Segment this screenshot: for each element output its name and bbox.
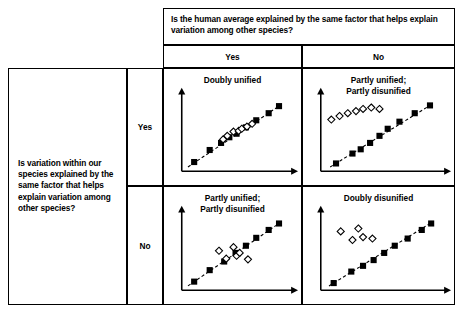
row-question-text: Is variation within our species explaine… bbox=[18, 158, 121, 215]
column-header-question: Is the human average explained by the sa… bbox=[163, 8, 455, 45]
scatter-plot-no-yes bbox=[164, 187, 301, 304]
contingency-figure: Is the human average explained by the sa… bbox=[0, 0, 464, 316]
column-header-yes: Yes bbox=[163, 45, 302, 68]
scatter-plot-no-no bbox=[303, 187, 454, 304]
row-header-question: Is variation within our species explaine… bbox=[8, 68, 127, 305]
cell-no-no: Doubly disunified bbox=[302, 186, 455, 305]
column-header-no-label: No bbox=[303, 46, 454, 67]
scatter-plot-yes-no bbox=[303, 69, 454, 185]
column-question-text: Is the human average explained by the sa… bbox=[171, 14, 449, 37]
column-header-no: No bbox=[302, 45, 455, 68]
row-header-yes-label: Yes bbox=[128, 69, 162, 185]
column-header-yes-label: Yes bbox=[164, 46, 301, 67]
scatter-plot-yes-yes bbox=[164, 69, 301, 185]
row-header-no-label: No bbox=[128, 187, 162, 304]
cell-yes-no: Partly unified; Partly disunified bbox=[302, 68, 455, 186]
cell-no-yes: Partly unified; Partly disunified bbox=[163, 186, 302, 305]
row-header-no: No bbox=[127, 186, 163, 305]
row-header-yes: Yes bbox=[127, 68, 163, 186]
cell-yes-yes: Doubly unified bbox=[163, 68, 302, 186]
